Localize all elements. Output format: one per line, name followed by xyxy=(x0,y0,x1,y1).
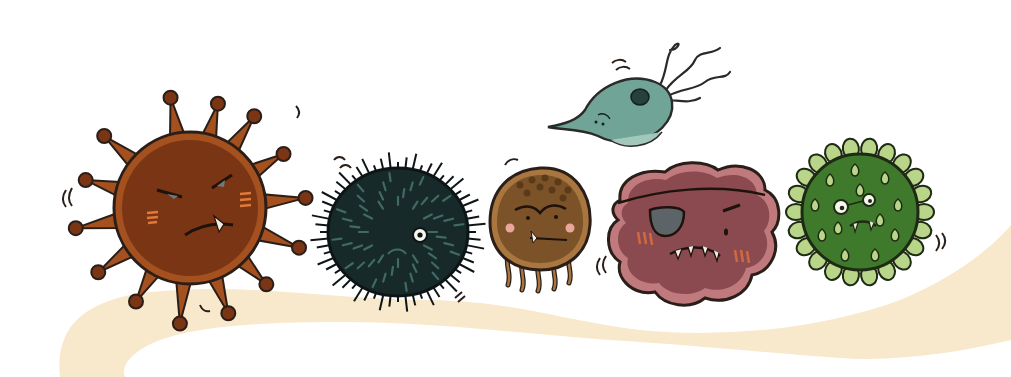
eye xyxy=(602,123,605,126)
inner-knob xyxy=(871,249,879,261)
teal-flagellate xyxy=(548,44,730,147)
spot xyxy=(537,184,544,191)
motion-mark xyxy=(334,157,351,168)
brown-tentacled-microbe xyxy=(490,159,606,291)
black-spiny-microbe xyxy=(310,152,485,311)
spot xyxy=(529,177,536,184)
inner-knob xyxy=(818,229,826,241)
right-pupil xyxy=(868,199,872,203)
virus-body-texture xyxy=(122,140,258,276)
left-pupil xyxy=(840,206,845,211)
motion-mark xyxy=(296,106,299,118)
left-cheek xyxy=(506,224,515,233)
eye xyxy=(724,229,728,236)
spine-streak xyxy=(455,224,464,225)
spot xyxy=(517,182,524,189)
spot xyxy=(565,187,572,194)
microbe-body xyxy=(328,168,468,296)
mauve-pirate-blob xyxy=(608,163,778,305)
spike-knob xyxy=(97,129,111,143)
inner-knob xyxy=(876,214,884,226)
microbe-illustration xyxy=(0,0,1011,377)
spike-knob xyxy=(299,191,313,205)
left-eye xyxy=(526,216,530,220)
spine-streak xyxy=(333,239,342,240)
illustration-canvas xyxy=(0,0,1011,377)
motion-mark xyxy=(63,188,72,207)
spike-knob xyxy=(221,306,235,320)
spike-knob xyxy=(292,241,306,255)
inner-knob xyxy=(856,184,864,196)
right-cheek xyxy=(566,224,575,233)
spine-streak xyxy=(403,189,404,197)
spike-knob xyxy=(164,91,178,105)
inner-knob xyxy=(841,249,849,261)
inner-knob xyxy=(894,199,902,211)
spot xyxy=(560,195,567,202)
motion-mark xyxy=(455,292,465,302)
spike-knob xyxy=(259,277,273,291)
right-eye xyxy=(554,215,558,219)
virus-body xyxy=(802,154,918,270)
spine-streak xyxy=(392,267,393,275)
spike-knob xyxy=(79,173,93,187)
inner-knob xyxy=(851,164,859,176)
spike-knob xyxy=(247,109,261,123)
spike-knob xyxy=(173,317,187,331)
spike-knob xyxy=(277,147,291,161)
motion-mark xyxy=(612,60,630,70)
motion-mark xyxy=(936,233,945,251)
motion-mark xyxy=(505,159,518,165)
inner-knob xyxy=(826,174,834,186)
spot xyxy=(555,179,562,186)
spike-knob xyxy=(69,221,83,235)
spike-knob xyxy=(91,265,105,279)
green-virus xyxy=(786,138,945,287)
flagellate-body xyxy=(548,79,672,142)
nucleus xyxy=(631,89,649,105)
flagella xyxy=(660,44,730,102)
spike-knob xyxy=(129,295,143,309)
spot xyxy=(542,175,549,182)
eye xyxy=(595,121,598,124)
pupil xyxy=(417,232,422,237)
inner-knob xyxy=(881,172,889,184)
spot xyxy=(524,190,531,197)
motion-mark xyxy=(597,256,606,275)
spot xyxy=(549,187,556,194)
inner-knob xyxy=(834,222,842,234)
inner-knob xyxy=(811,199,819,211)
spike-knob xyxy=(211,97,225,111)
spine-streak xyxy=(389,173,390,181)
spine-streak xyxy=(437,237,446,238)
inner-knob xyxy=(891,229,899,241)
spine-streak xyxy=(405,283,406,291)
spine-streak xyxy=(350,226,359,227)
